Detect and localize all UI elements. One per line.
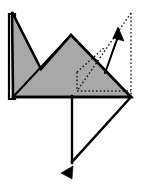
origami-fold-diagram bbox=[0, 0, 142, 189]
origami-diagram-container bbox=[0, 0, 142, 189]
